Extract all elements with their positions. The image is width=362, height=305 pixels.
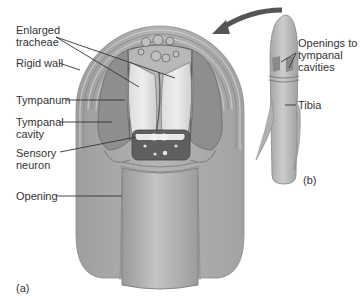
label-tibia: Tibia <box>298 99 321 111</box>
tibia-illustration <box>256 15 300 184</box>
label-opening: Opening <box>16 190 58 202</box>
label-openings-to-tympanal-cavities: Openings to tympanal cavities <box>298 37 357 73</box>
label-enlarged-tracheae: Enlarged tracheae <box>16 24 60 48</box>
label-tympanal-cavity: Tympanal cavity <box>16 116 64 140</box>
front-cylinder <box>122 168 198 289</box>
pointer-arrow <box>222 10 282 28</box>
panel-a-tag: (a) <box>16 282 29 294</box>
leg-cross-section <box>76 26 244 289</box>
label-rigid-wall: Rigid wall <box>16 57 63 69</box>
panel-b-tag: (b) <box>303 174 316 186</box>
label-tympanum: Tympanum <box>16 94 70 106</box>
label-sensory-neuron: Sensory neuron <box>16 147 56 171</box>
